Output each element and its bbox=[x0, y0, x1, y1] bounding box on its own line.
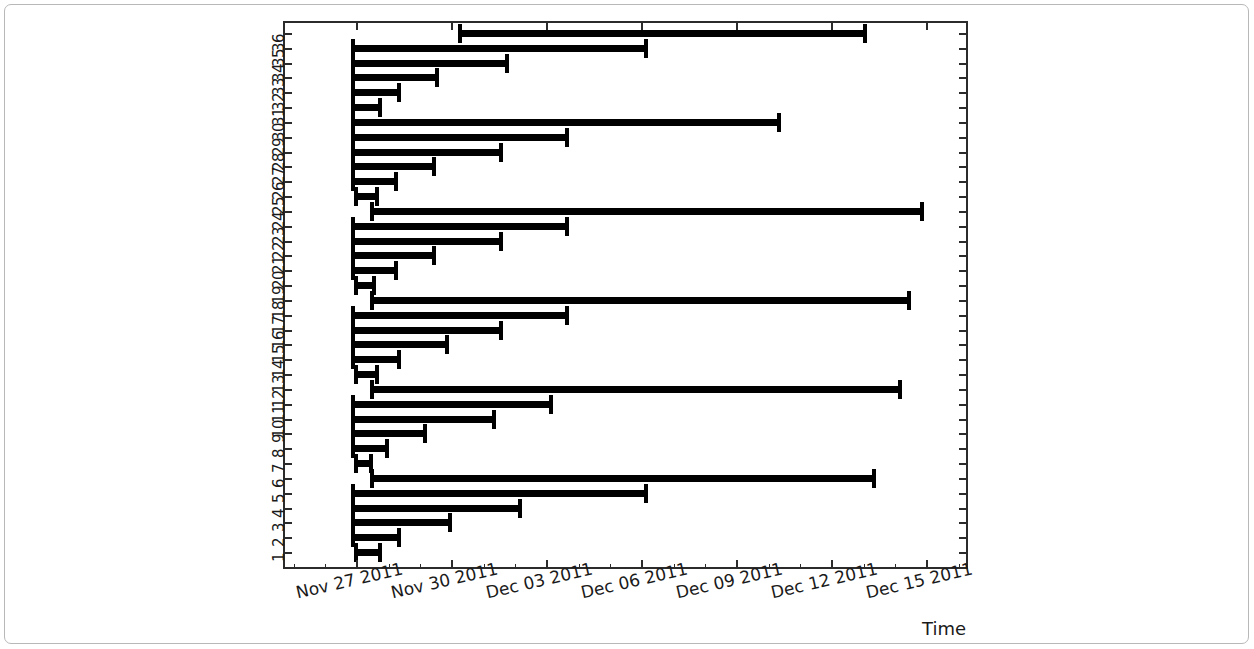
gantt-bar-end-cap bbox=[644, 39, 648, 58]
gantt-bar-end-cap bbox=[375, 187, 379, 206]
y-tick-mark-right bbox=[959, 270, 968, 272]
x-tick-mark-top bbox=[356, 21, 358, 30]
gantt-bar-end-cap bbox=[397, 83, 401, 102]
gantt-bar-line bbox=[370, 208, 924, 215]
y-tick-mark-right bbox=[959, 537, 968, 539]
gantt-bar-end-cap bbox=[375, 365, 379, 384]
gantt-bar-start-cap bbox=[351, 217, 355, 236]
gantt-bar-end-cap bbox=[394, 172, 398, 191]
gantt-bar-end-cap bbox=[499, 143, 503, 162]
gantt-bar-line bbox=[351, 89, 402, 96]
gantt-bar-line bbox=[351, 238, 503, 245]
gantt-bar-end-cap bbox=[448, 513, 452, 532]
gantt-bar-start-cap bbox=[370, 202, 374, 221]
gantt-bar-line bbox=[351, 178, 399, 185]
x-tick-mark-top bbox=[926, 21, 928, 30]
y-tick-mark-right bbox=[959, 478, 968, 480]
y-tick-mark-right bbox=[959, 33, 968, 35]
gantt-bar-end-cap bbox=[565, 128, 569, 147]
y-tick-mark-right bbox=[959, 433, 968, 435]
gantt-bar-end-cap bbox=[432, 246, 436, 265]
gantt-bar-start-cap bbox=[351, 306, 355, 325]
gantt-bar-line bbox=[351, 534, 402, 541]
y-tick-mark-right bbox=[959, 181, 968, 183]
gantt-bar-end-cap bbox=[394, 261, 398, 280]
x-tick-mark-minor bbox=[705, 564, 706, 569]
y-tick-mark-right bbox=[959, 522, 968, 524]
y-tick-mark-right bbox=[959, 359, 968, 361]
plot-area bbox=[283, 21, 968, 569]
y-tick-mark-right bbox=[959, 330, 968, 332]
gantt-bar-line bbox=[351, 163, 437, 170]
y-tick-mark-right bbox=[959, 196, 968, 198]
x-tick-mark-top bbox=[451, 21, 453, 30]
y-axis-tick-label: 1 bbox=[270, 553, 288, 613]
gantt-bar-line bbox=[370, 386, 902, 393]
gantt-bar-line bbox=[351, 60, 509, 67]
gantt-bar-end-cap bbox=[907, 291, 911, 310]
gantt-bar-end-cap bbox=[505, 54, 509, 73]
gantt-bar-end-cap bbox=[898, 380, 902, 399]
gantt-bar-line bbox=[351, 45, 649, 52]
x-tick-mark-minor bbox=[294, 564, 295, 569]
gantt-bar-line bbox=[370, 475, 877, 482]
gantt-bar-end-cap bbox=[863, 24, 867, 43]
gantt-bar-line bbox=[458, 30, 867, 37]
gantt-bar-end-cap bbox=[565, 217, 569, 236]
y-tick-mark-right bbox=[959, 404, 968, 406]
gantt-bar-end-cap bbox=[369, 454, 373, 473]
gantt-bar-end-cap bbox=[397, 350, 401, 369]
gantt-bar-end-cap bbox=[445, 335, 449, 354]
gantt-bar-line bbox=[370, 297, 912, 304]
x-tick-mark-minor bbox=[895, 564, 896, 569]
gantt-bar-line bbox=[351, 430, 427, 437]
y-tick-mark-right bbox=[959, 448, 968, 450]
y-tick-mark-right bbox=[959, 493, 968, 495]
x-tick-mark-minor bbox=[800, 564, 801, 569]
gantt-bar-end-cap bbox=[378, 543, 382, 562]
y-tick-mark-right bbox=[959, 48, 968, 50]
y-tick-mark-right bbox=[959, 508, 968, 510]
gantt-bar-end-cap bbox=[435, 68, 439, 87]
gantt-bar-end-cap bbox=[432, 157, 436, 176]
gantt-bar-end-cap bbox=[492, 410, 496, 429]
gantt-bar-start-cap bbox=[351, 395, 355, 414]
x-tick-mark-top bbox=[546, 21, 548, 30]
gantt-chart-figure: 3635343332313029282726252423222120191817… bbox=[0, 0, 1254, 649]
gantt-bar-end-cap bbox=[499, 321, 503, 340]
gantt-bar-line bbox=[351, 74, 440, 81]
y-tick-mark-right bbox=[959, 315, 968, 317]
gantt-bar-start-cap bbox=[370, 380, 374, 399]
y-tick-mark-right bbox=[959, 152, 968, 154]
y-tick-mark-right bbox=[959, 166, 968, 168]
gantt-bar-line bbox=[351, 119, 782, 126]
y-tick-mark-right bbox=[959, 300, 968, 302]
y-tick-mark-right bbox=[959, 107, 968, 109]
y-tick-mark-right bbox=[959, 463, 968, 465]
x-tick-mark-minor bbox=[420, 564, 421, 569]
x-tick-mark-minor bbox=[610, 564, 611, 569]
y-tick-mark-right bbox=[959, 241, 968, 243]
gantt-bar-end-cap bbox=[644, 484, 648, 503]
gantt-bar-line bbox=[351, 416, 497, 423]
gantt-bar-line bbox=[351, 356, 402, 363]
gantt-bar-end-cap bbox=[549, 395, 553, 414]
y-tick-mark-right bbox=[959, 344, 968, 346]
x-tick-mark-minor bbox=[515, 564, 516, 569]
gantt-bar-start-cap bbox=[458, 24, 462, 43]
gantt-bar-end-cap bbox=[372, 276, 376, 295]
y-tick-mark-right bbox=[959, 374, 968, 376]
gantt-bar-end-cap bbox=[565, 306, 569, 325]
gantt-bar-line bbox=[351, 149, 503, 156]
y-tick-mark-right bbox=[959, 77, 968, 79]
gantt-bar-line bbox=[351, 341, 449, 348]
gantt-bar-line bbox=[351, 401, 554, 408]
y-tick-mark-right bbox=[959, 285, 968, 287]
y-tick-mark-right bbox=[959, 63, 968, 65]
y-tick-mark-right bbox=[959, 211, 968, 213]
y-tick-mark-right bbox=[959, 92, 968, 94]
gantt-bar-line bbox=[351, 490, 649, 497]
gantt-bar-end-cap bbox=[423, 424, 427, 443]
x-tick-mark-top bbox=[831, 21, 833, 30]
y-tick-mark-right bbox=[959, 552, 968, 554]
